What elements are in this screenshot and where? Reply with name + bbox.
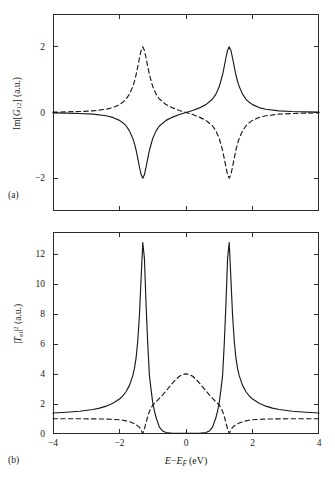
y-tick-label-b: 4: [23, 369, 45, 379]
ylabel-b-superscript: 2: [12, 326, 19, 329]
y-tick-label-b: 2: [23, 399, 45, 409]
ylabel-b-subscript: el: [17, 332, 24, 337]
x-tick-label: −4: [48, 438, 58, 448]
xlabel-fermi-subscript: F: [183, 460, 187, 468]
y-tick-label-b: 12: [23, 249, 45, 259]
ylabel-a-subscript: 12: [15, 103, 22, 110]
y-tick-label-a: 0: [23, 108, 45, 118]
panel-b-tag: (b): [8, 455, 19, 465]
ylabel-b-units: (a.u.): [13, 304, 23, 326]
panel-b-plot-area: [53, 232, 319, 434]
panel-a-tag: (a): [8, 190, 19, 200]
x-tick-label: 0: [184, 438, 189, 448]
x-axis-label: E−EF (eV): [53, 455, 319, 468]
y-tick-label-a: 2: [23, 42, 45, 52]
ylabel-a-pre: Im[: [12, 116, 22, 130]
figure-container: Im[G12] (a.u.) (a) |Tel|2 (a.u.) (b) E−E…: [0, 0, 335, 482]
curve-b-dashed: [53, 374, 319, 434]
ylabel-a-post: ] (a.u.): [12, 77, 22, 103]
y-tick-label-a: −2: [23, 173, 45, 183]
x-tick-label: −2: [114, 438, 124, 448]
ylabel-b-pre: |: [13, 342, 23, 344]
y-tick-label-b: 0: [23, 429, 45, 439]
y-tick-label-b: 10: [23, 279, 45, 289]
ylabel-b-post: |: [13, 330, 23, 332]
curve-a-dashed: [53, 47, 319, 178]
y-tick-label-b: 6: [23, 339, 45, 349]
panel-a-y-axis-label: Im[G12] (a.u.): [12, 58, 23, 148]
xlabel-units: (eV): [189, 455, 207, 466]
ylabel-b-symbol: T: [13, 337, 23, 342]
x-tick-label: 4: [317, 438, 322, 448]
panel-b-curves: [53, 232, 319, 434]
y-tick-label-b: 8: [23, 309, 45, 319]
panel-a-plot-area: [53, 14, 319, 211]
panel-a-curves: [53, 14, 319, 211]
panel-b-y-axis-label: |Tel|2 (a.u.): [12, 279, 24, 369]
ylabel-a-symbol: G: [12, 109, 22, 116]
x-tick-label: 2: [250, 438, 255, 448]
curve-b-solid: [53, 242, 319, 433]
